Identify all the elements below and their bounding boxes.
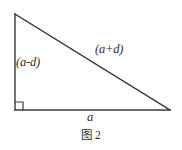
hypotenuse-label: (a+d)	[95, 43, 123, 56]
right-angle-marker-icon	[15, 102, 23, 110]
horizontal-leg-label: a	[87, 111, 93, 124]
figure-container: (a-d) (a+d) a 图 2	[0, 0, 182, 150]
right-triangle-diagram	[0, 0, 182, 150]
figure-caption: 图 2	[0, 130, 182, 142]
vertical-leg-label: (a-d)	[16, 56, 40, 69]
